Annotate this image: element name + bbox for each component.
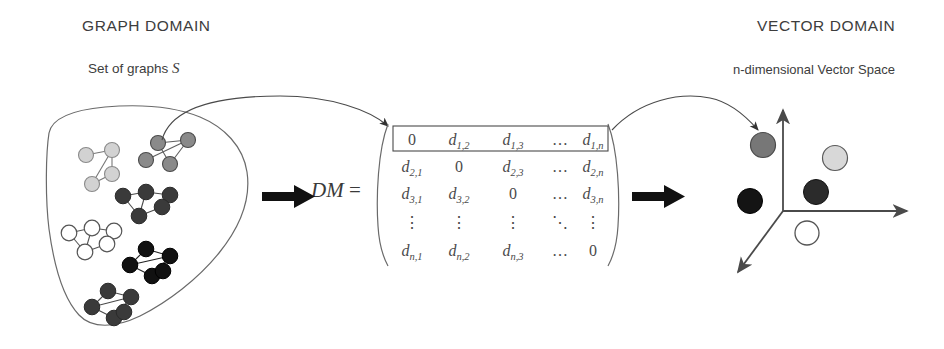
cell-3-4: ⋮ xyxy=(585,214,601,231)
cell-2-1: d3,2 xyxy=(448,185,470,205)
cell-3-0: ⋮ xyxy=(404,214,420,231)
diagram-canvas: GRAPH DOMAIN VECTOR DOMAIN Set of graphs… xyxy=(0,0,944,349)
cell-1-1: 0 xyxy=(455,158,463,175)
cell-4-1: dn,2 xyxy=(448,242,470,262)
point-black xyxy=(738,189,763,214)
axis-z xyxy=(738,211,783,272)
cell-4-3: … xyxy=(552,242,568,259)
graph-light-gray-4node xyxy=(79,143,120,192)
cell-3-2: ⋮ xyxy=(505,214,521,231)
vector-space-points xyxy=(738,133,848,246)
graph-black-5node xyxy=(122,241,178,284)
cell-0-2: d1,3 xyxy=(502,131,523,151)
cell-1-2: d2,3 xyxy=(502,158,523,178)
cell-4-4: 0 xyxy=(589,242,597,259)
cell-0-0: 0 xyxy=(408,131,416,148)
cell-2-3: … xyxy=(552,185,568,202)
point-white xyxy=(795,221,819,245)
point-dark-gray xyxy=(804,180,829,205)
cell-4-2: dn,3 xyxy=(502,242,523,262)
cell-0-3: … xyxy=(552,131,568,148)
cell-3-3: ⋱ xyxy=(552,214,568,231)
callout-arrow-graph-to-row xyxy=(162,96,388,140)
cell-2-2: 0 xyxy=(509,185,517,202)
cell-3-1: ⋮ xyxy=(451,214,467,231)
cell-0-1: d1,2 xyxy=(448,131,470,151)
distance-matrix: 0 d1,2 d1,3 … d1,n d2,1 0 d2,3 … d2,n d3… xyxy=(377,124,618,266)
diagram-vector-layer: 0 d1,2 d1,3 … d1,n d2,1 0 d2,3 … d2,n d3… xyxy=(0,0,944,349)
point-light-gray xyxy=(823,146,848,171)
block-arrow-embed xyxy=(262,185,315,208)
cell-1-3: … xyxy=(552,158,568,175)
graph-medium-gray-4node xyxy=(139,133,196,172)
first-row-highlight-box xyxy=(393,126,608,151)
matrix-left-bracket xyxy=(377,124,388,266)
cell-2-4: d3,n xyxy=(582,185,603,205)
matrix-right-bracket xyxy=(608,124,619,266)
cell-0-4: d1,n xyxy=(582,131,603,151)
point-medium-gray xyxy=(751,133,776,158)
graph-white-5node xyxy=(61,220,122,260)
graph-dark-gray-5node xyxy=(115,184,178,224)
block-arrow-map xyxy=(632,185,685,208)
cell-2-0: d3,1 xyxy=(401,185,422,205)
callout-arrow-row-to-point xyxy=(612,96,758,130)
cell-1-0: d2,1 xyxy=(401,158,422,178)
cell-1-4: d2,n xyxy=(582,158,603,178)
cell-4-0: dn,1 xyxy=(401,242,422,262)
